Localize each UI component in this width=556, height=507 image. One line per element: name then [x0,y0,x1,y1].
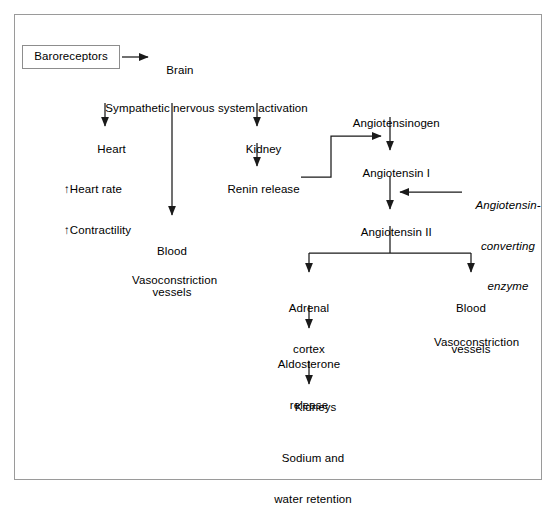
node-brain: Brain [153,50,194,91]
vasoconstriction-left-label: Vasoconstriction [132,274,217,286]
node-heart-effects: ↑Heart rate ↑Contractility [64,156,131,264]
node-vasoconstriction-right: Vasoconstriction [421,322,519,363]
angiotensin-ii-label: Angiotensin II [361,226,432,238]
kidney-label: Kidney [246,143,282,155]
kidneys-label: Kidneys [295,401,337,413]
brain-label: Brain [166,64,193,76]
node-kidneys: Kidneys [282,387,337,428]
node-angiotensin-ii: Angiotensin II [348,212,432,253]
adrenal-cortex-line1: Adrenal [289,302,329,316]
blood-vessels-right-line1: Blood [451,302,490,316]
blood-vessels-left-line1: Blood [152,245,191,259]
angiotensin-i-label: Angiotensin I [362,167,430,179]
node-angiotensin-i: Angiotensin I [350,153,430,194]
sodium-water-line1: Sodium and [274,452,352,466]
aldosterone-line1: Aldosterone [278,358,340,372]
renin-release-label: Renin release [227,183,299,195]
sympathetic-label: Sympathetic nervous system activation [105,102,307,114]
sodium-water-line2: water retention [274,493,352,507]
vasoconstriction-right-label: Vasoconstriction [434,336,519,348]
angiotensinogen-label: Angiotensinogen [353,117,440,129]
heart-label: Heart [97,143,126,155]
node-sympathetic-activation: Sympathetic nervous system activation [92,88,308,129]
heart-rate-label: ↑Heart rate [64,183,131,197]
node-renin-release: Renin release [214,169,299,210]
baroreceptors-label: Baroreceptors [34,50,108,64]
node-angiotensinogen: Angiotensinogen [340,103,440,144]
ace-line2: converting [475,240,540,254]
node-vasoconstriction-left: Vasoconstriction [119,260,217,301]
node-sodium-water-retention: Sodium and water retention [274,425,352,507]
node-kidney: Kidney [233,129,282,170]
node-baroreceptors: Baroreceptors [22,45,120,69]
contractility-label: ↑Contractility [64,224,131,238]
ace-line1: Angiotensin- [475,199,540,213]
